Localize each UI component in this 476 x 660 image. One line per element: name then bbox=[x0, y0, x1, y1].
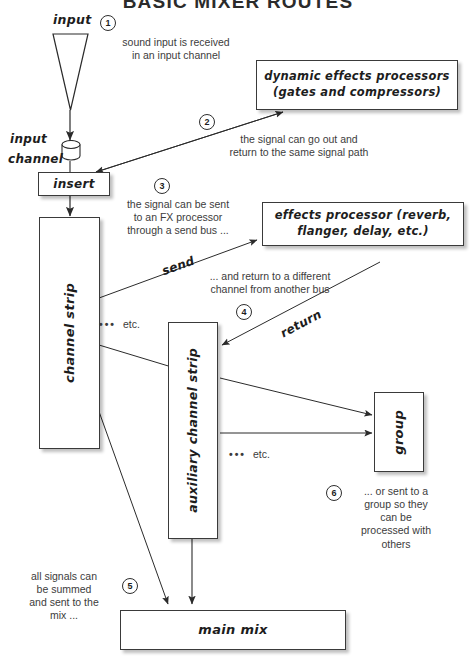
etc-dots-2: ••• bbox=[229, 448, 246, 460]
step-4-number: 4 bbox=[236, 304, 252, 320]
step-4-line-1: ... and return to a different bbox=[190, 270, 350, 283]
insert-box[interactable]: insert bbox=[38, 172, 110, 196]
step-5-line-3: and sent to the bbox=[10, 596, 118, 609]
group-box[interactable]: group bbox=[374, 392, 424, 472]
step-1-line-2: in an input channel bbox=[96, 49, 256, 62]
input-channel-node bbox=[60, 140, 82, 162]
step-6-line-3: can be bbox=[344, 511, 448, 524]
step-5-line-2: be summed bbox=[10, 583, 118, 596]
channel-strip-box[interactable]: channel strip bbox=[39, 217, 100, 449]
step-3-line-1: the signal can be sent bbox=[108, 198, 248, 211]
step-6-line-5: others bbox=[344, 538, 448, 551]
etc-marker-aux-strip: •••etc. bbox=[229, 448, 270, 460]
auxiliary-channel-strip-label: auxiliary channel strip bbox=[185, 348, 202, 513]
step-5-line-4: mix ... bbox=[10, 609, 118, 622]
aux-strip-label-wrap: auxiliary channel strip bbox=[169, 323, 217, 538]
step-1-text: sound input is received in an input chan… bbox=[96, 36, 256, 62]
step-6-line-1: ... or sent to a bbox=[344, 485, 448, 498]
step-3-number: 3 bbox=[154, 178, 170, 194]
main-mix-label: main mix bbox=[121, 611, 345, 649]
dynamic-effects-line2: (gates and compressors) bbox=[264, 85, 450, 101]
step-1-line-1: sound input is received bbox=[96, 36, 256, 49]
group-label: group bbox=[390, 410, 408, 455]
step-5-number: 5 bbox=[122, 578, 138, 594]
step-6-text: ... or sent to a group so they can be pr… bbox=[344, 485, 448, 551]
auxiliary-channel-strip-box[interactable]: auxiliary channel strip bbox=[168, 322, 218, 539]
effects-processor-line1: effects processor (reverb, bbox=[275, 208, 452, 224]
insert-label: insert bbox=[39, 173, 109, 195]
input-channel-label-line2: channel bbox=[8, 152, 63, 166]
step-3-line-3: through a send bus ... bbox=[108, 224, 248, 237]
etc-dots-1: ••• bbox=[99, 318, 116, 330]
step-5-line-1: all signals can bbox=[10, 570, 118, 583]
dynamic-effects-box[interactable]: dynamic effects processors (gates and co… bbox=[256, 60, 458, 110]
step-2-text: the signal can go out and return to the … bbox=[204, 133, 394, 159]
diagram-canvas: BASIC MIXER ROUTES bbox=[0, 0, 476, 660]
step-3-text: the signal can be sent to an FX processo… bbox=[108, 198, 248, 237]
etc-label-1: etc. bbox=[123, 318, 140, 330]
etc-marker-channel-strip: •••etc. bbox=[99, 318, 140, 330]
input-label: input bbox=[53, 12, 92, 27]
dynamic-effects-label-wrap: dynamic effects processors (gates and co… bbox=[257, 61, 457, 109]
step-3-line-2: to an FX processor bbox=[108, 211, 248, 224]
step-5-text: all signals can be summed and sent to th… bbox=[10, 570, 118, 623]
effects-processor-box[interactable]: effects processor (reverb, flanger, dela… bbox=[262, 202, 464, 246]
dynamic-effects-line1: dynamic effects processors bbox=[264, 69, 450, 85]
input-funnel-shape bbox=[52, 33, 90, 113]
step-2-line-2: return to the same signal path bbox=[204, 146, 394, 159]
step-6-number: 6 bbox=[326, 485, 342, 501]
step-4-line-2: channel from another bus bbox=[190, 283, 350, 296]
input-channel-label-line1: input bbox=[10, 132, 47, 146]
channel-strip-label: channel strip bbox=[61, 283, 79, 383]
effects-processor-line2: flanger, delay, etc.) bbox=[275, 224, 452, 240]
channel-strip-label-wrap: channel strip bbox=[40, 218, 99, 448]
step-6-line-2: group so they bbox=[344, 498, 448, 511]
step-1-number: 1 bbox=[100, 15, 116, 31]
main-mix-box[interactable]: main mix bbox=[120, 610, 346, 650]
effects-processor-label-wrap: effects processor (reverb, flanger, dela… bbox=[263, 203, 463, 245]
group-label-wrap: group bbox=[375, 393, 423, 471]
return-edge-label: return bbox=[278, 307, 324, 340]
step-6-line-4: processed with bbox=[344, 524, 448, 537]
step-2-line-1: the signal can go out and bbox=[204, 133, 394, 146]
etc-label-2: etc. bbox=[253, 448, 270, 460]
step-2-number: 2 bbox=[199, 114, 215, 130]
step-4-text: ... and return to a different channel fr… bbox=[190, 270, 350, 296]
